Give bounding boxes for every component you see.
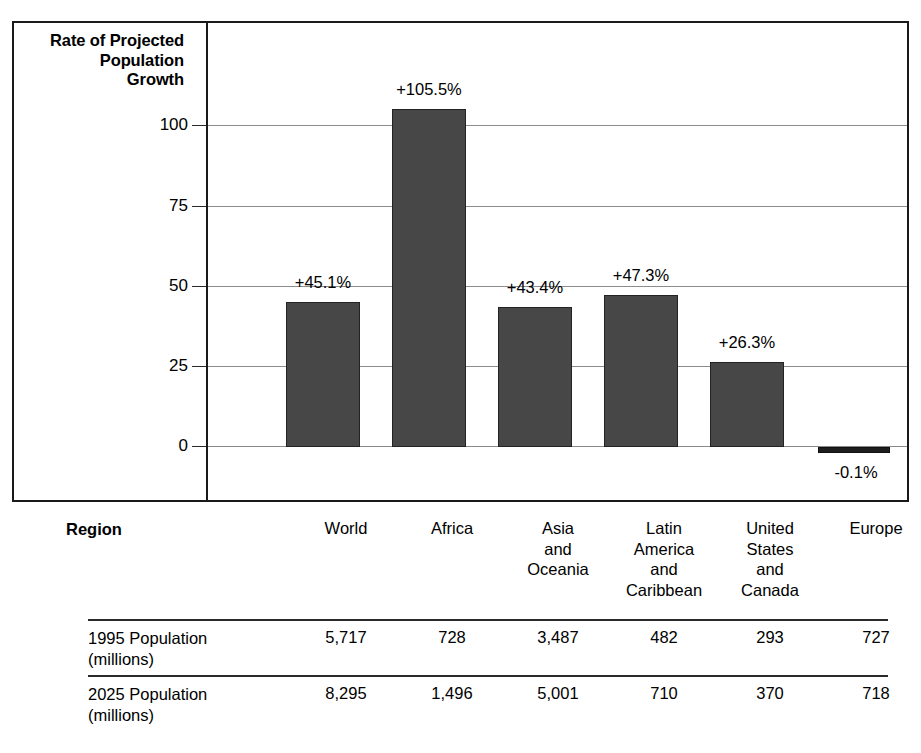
plot-area: 100 75 50 25 0 +45.1% +105.5% +43.4% +47… xyxy=(208,23,907,500)
tick-label-50: 50 xyxy=(169,276,188,296)
region-label-united-states-canada: United States and Canada xyxy=(741,518,799,600)
cell-1995-world: 5,717 xyxy=(325,628,366,647)
tick-mark-50 xyxy=(192,286,206,287)
cell-2025-asia-oceania: 5,001 xyxy=(537,684,578,703)
tick-label-25: 25 xyxy=(169,356,188,376)
gridline-100: 100 xyxy=(208,125,907,126)
region-label-latin-america-caribbean: Latin America and Caribbean xyxy=(626,518,702,600)
tick-mark-0 xyxy=(192,446,206,447)
tick-mark-75 xyxy=(192,206,206,207)
cell-1995-latin-america-caribbean: 482 xyxy=(650,628,678,647)
row-label-1995-population: 1995 Population (millions) xyxy=(88,628,260,669)
chart-frame: Rate of Projected Population Growth 100 … xyxy=(12,21,909,502)
tick-label-75: 75 xyxy=(169,196,188,216)
bar-label-asia-oceania: +43.4% xyxy=(507,278,563,297)
region-label-europe: Europe xyxy=(849,518,902,539)
bar-label-africa: +105.5% xyxy=(396,80,462,99)
cell-1995-asia-oceania: 3,487 xyxy=(537,628,578,647)
cell-1995-united-states-canada: 293 xyxy=(756,628,784,647)
bar-asia-oceania xyxy=(498,307,572,447)
region-label-asia-oceania: Asia and Oceania xyxy=(527,518,588,580)
region-header-row: Region World Africa Asia and Oceania Lat… xyxy=(0,510,921,610)
region-caption: Region xyxy=(66,520,186,539)
cell-2025-latin-america-caribbean: 710 xyxy=(650,684,678,703)
bar-label-latin-america-caribbean: +47.3% xyxy=(613,266,669,285)
cell-1995-europe: 727 xyxy=(862,628,890,647)
bar-africa xyxy=(392,109,466,447)
tick-label-0: 0 xyxy=(179,436,188,456)
cell-2025-europe: 718 xyxy=(862,684,890,703)
bar-europe xyxy=(818,447,890,453)
bar-label-united-states-canada: +26.3% xyxy=(719,333,775,352)
gridline-75: 75 xyxy=(208,206,907,207)
bar-world xyxy=(286,302,360,447)
cell-2025-world: 8,295 xyxy=(325,684,366,703)
region-label-africa: Africa xyxy=(431,518,473,539)
bar-label-world: +45.1% xyxy=(295,273,351,292)
region-label-world: World xyxy=(325,518,368,539)
cell-2025-united-states-canada: 370 xyxy=(756,684,784,703)
row-label-2025-population: 2025 Population (millions) xyxy=(88,684,260,725)
bar-united-states-canada xyxy=(710,362,784,447)
table-rule-top xyxy=(88,619,888,621)
tick-mark-100 xyxy=(192,125,206,126)
cell-2025-africa: 1,496 xyxy=(431,684,472,703)
bar-label-europe: -0.1% xyxy=(834,463,877,482)
table-rule-middle xyxy=(88,675,888,677)
cell-1995-africa: 728 xyxy=(438,628,466,647)
y-axis-title: Rate of Projected Population Growth xyxy=(44,31,184,90)
tick-label-100: 100 xyxy=(160,115,188,135)
tick-mark-25 xyxy=(192,366,206,367)
bar-latin-america-caribbean xyxy=(604,295,678,447)
